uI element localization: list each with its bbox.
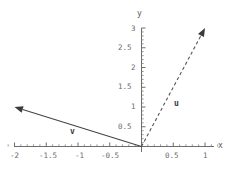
x-tick-label-1: 1 [203,152,208,160]
x-axis-label: x [218,142,223,150]
y-tick-label-1: 1 [131,103,136,111]
vector-v-label: v [70,128,75,136]
y-tick-label-3: 3 [131,25,136,33]
y-axis-ticks [142,28,146,143]
x-tick-label-minus2: -2 [10,152,19,160]
vector-u-shaft [142,35,201,146]
plot-canvas [0,0,233,170]
x-axis-ticks [8,143,218,147]
x-tick-label-minus0p5: -0.5 [101,152,119,160]
y-tick-label-2p5: 2.5 [118,44,132,52]
vector-u [142,28,206,147]
vector-u-label: u [174,100,179,108]
y-tick-label-0p5: 0.5 [118,123,132,131]
y-axis-label: y [137,10,142,18]
x-tick-label-minus1p5: -1.5 [39,152,57,160]
x-tick-label-minus1: -1 [75,152,84,160]
x-tick-label-0p5: 0.5 [165,152,179,160]
vector-plot: y x -2 -1.5 -1 -0.5 0.5 1 0.5 1 1.5 2 2.… [0,0,233,170]
y-tick-label-1p5: 1.5 [118,83,132,91]
vector-v-arrowhead [15,106,24,112]
y-tick-label-2: 2 [131,64,136,72]
vector-u-arrowhead [198,28,205,37]
